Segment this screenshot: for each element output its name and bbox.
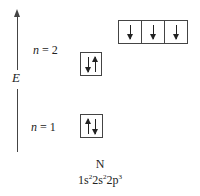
energy-axis-lower-line: [17, 89, 18, 152]
orbital-box-2p-2: [141, 20, 165, 44]
config-2p-count: 3: [118, 173, 122, 181]
level-label-n2: n = 2: [33, 43, 58, 58]
config-2p: 2p: [106, 173, 118, 187]
n-value: = 1: [37, 120, 56, 134]
config-2s: 2s: [92, 173, 103, 187]
spin-down-arrow-icon: [95, 119, 96, 134]
energy-axis-upper-line: [17, 14, 18, 70]
element-symbol: N: [0, 157, 200, 172]
spin-up-arrow-icon: [95, 57, 96, 72]
spin-down-arrow-icon: [130, 25, 131, 39]
orbital-box-2p-3: [164, 20, 188, 44]
spin-down-arrow-icon: [88, 57, 89, 72]
energy-axis-label: E: [12, 70, 20, 86]
orbital-box-2s: [80, 52, 102, 76]
spin-down-arrow-icon: [176, 25, 177, 39]
orbital-box-1s: [80, 114, 103, 138]
n-value: = 2: [39, 43, 58, 57]
spin-down-arrow-icon: [153, 25, 154, 39]
config-1s: 1s: [78, 173, 89, 187]
orbital-box-2p-1: [118, 20, 142, 44]
level-label-n1: n = 1: [31, 120, 56, 135]
spin-up-arrow-icon: [88, 119, 89, 134]
orbital-row-2p: [118, 20, 188, 44]
electron-configuration: 1s22s22p3: [0, 173, 200, 188]
